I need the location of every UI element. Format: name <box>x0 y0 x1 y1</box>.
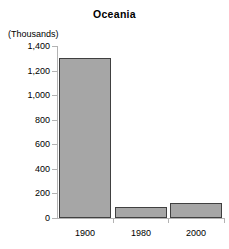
x-tick-mark <box>168 218 169 223</box>
y-tick-label: 1,000 <box>4 91 50 100</box>
x-tick-mark <box>113 218 114 223</box>
y-tick-label: 400 <box>4 165 50 174</box>
y-tick-label: 200 <box>4 189 50 198</box>
y-tick-label: 1,400 <box>4 42 50 51</box>
y-tick-label-wrap: 600 <box>0 140 50 149</box>
bar-chart: Oceania (Thousands) 02004006008001,0001,… <box>0 0 229 249</box>
bars-container <box>57 46 224 218</box>
y-tick-label: 1,200 <box>4 67 50 76</box>
y-tick-label: 0 <box>4 214 50 223</box>
y-axis-unit-label: (Thousands) <box>8 29 59 40</box>
bar <box>170 203 222 218</box>
y-tick-label-wrap: 1,000 <box>0 91 50 100</box>
y-tick-label-wrap: 400 <box>0 165 50 174</box>
x-tick-label: 1980 <box>113 228 169 238</box>
y-tick-label-wrap: 1,400 <box>0 42 50 51</box>
chart-title: Oceania <box>0 8 229 20</box>
y-tick-label-wrap: 800 <box>0 116 50 125</box>
bar <box>59 58 111 218</box>
y-tick-label: 800 <box>4 116 50 125</box>
x-axis-line <box>57 218 224 219</box>
x-tick-label: 1900 <box>57 228 113 238</box>
y-tick-label-wrap: 1,200 <box>0 67 50 76</box>
x-tick-label: 2000 <box>168 228 224 238</box>
bar <box>115 207 167 218</box>
x-tick-mark <box>224 218 225 223</box>
y-tick-label-wrap: 200 <box>0 189 50 198</box>
y-tick-label: 600 <box>4 140 50 149</box>
y-tick-mark <box>52 218 58 219</box>
y-tick-label-wrap: 0 <box>0 214 50 223</box>
